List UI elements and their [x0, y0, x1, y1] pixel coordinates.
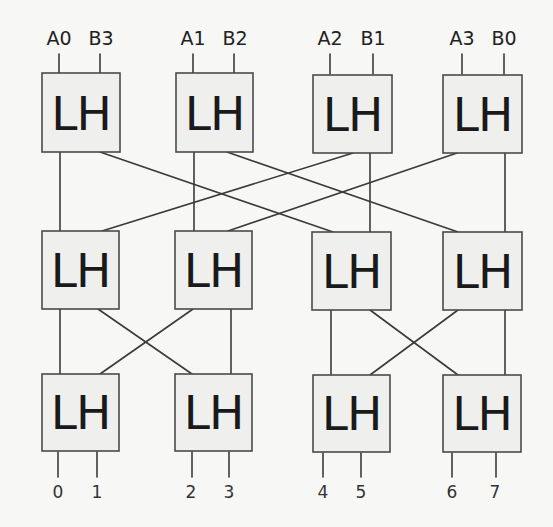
diagram-canvas: A0 B3 A1 B2 A2 B1 A3 B0 — [0, 0, 553, 527]
lh-block: LH — [42, 231, 119, 309]
lh-block: LH — [443, 75, 522, 153]
lh-block: LH — [42, 374, 119, 451]
output-label-2: 2 — [186, 482, 197, 502]
output-label-3: 3 — [224, 482, 235, 502]
butterfly-diagram: A0 B3 A1 B2 A2 B1 A3 B0 — [0, 0, 553, 527]
lh-block: LH — [175, 231, 252, 309]
stage1-to-stage2-wires — [60, 152, 505, 232]
output-wires — [58, 452, 496, 477]
lh-block-label: LH — [453, 244, 513, 299]
output-label-1: 1 — [92, 482, 103, 502]
stage2-to-stage3-wires — [60, 309, 505, 375]
wire — [102, 153, 353, 231]
stage-2-row: LH LH LH LH — [42, 231, 522, 310]
output-label-4: 4 — [318, 482, 329, 502]
input-wires — [59, 54, 504, 74]
input-label-b0: B0 — [491, 27, 516, 49]
input-label-a3: A3 — [449, 27, 474, 49]
input-label-a1: A1 — [180, 27, 205, 49]
lh-block-label: LH — [51, 86, 111, 141]
input-label-a0: A0 — [46, 27, 71, 49]
output-label-6: 6 — [447, 482, 458, 502]
lh-block-label: LH — [185, 86, 245, 141]
stage-3-row: LH LH LH LH — [42, 374, 521, 452]
lh-block-label: LH — [184, 385, 244, 440]
output-label-0: 0 — [53, 482, 64, 502]
lh-block: LH — [175, 374, 252, 451]
lh-block: LH — [42, 73, 120, 152]
lh-block-label: LH — [51, 243, 111, 298]
input-label-b3: B3 — [88, 27, 113, 49]
input-label-b1: B1 — [360, 27, 385, 49]
lh-block-label: LH — [184, 243, 244, 298]
lh-block-label: LH — [322, 386, 382, 441]
lh-block-label: LH — [51, 385, 111, 440]
lh-block: LH — [176, 73, 253, 152]
lh-block: LH — [443, 375, 521, 452]
input-label-a2: A2 — [317, 27, 342, 49]
lh-block: LH — [443, 232, 522, 310]
lh-block: LH — [313, 375, 390, 452]
lh-block-label: LH — [323, 87, 383, 142]
input-labels: A0 B3 A1 B2 A2 B1 A3 B0 — [46, 27, 516, 49]
lh-block-label: LH — [322, 244, 382, 299]
stage-1-row: LH LH LH LH — [42, 73, 522, 153]
input-label-b2: B2 — [222, 27, 247, 49]
lh-block: LH — [313, 75, 392, 153]
output-labels: 0 1 2 3 4 5 6 7 — [53, 482, 501, 502]
lh-block: LH — [312, 232, 391, 310]
output-label-5: 5 — [356, 482, 367, 502]
output-label-7: 7 — [490, 482, 501, 502]
lh-block-label: LH — [452, 386, 512, 441]
lh-block-label: LH — [453, 87, 513, 142]
